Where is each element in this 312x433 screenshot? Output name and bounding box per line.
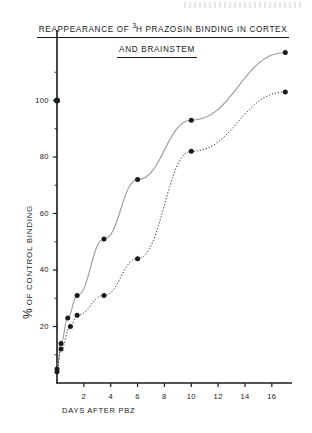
x-axis-tick-label: 8	[154, 392, 174, 401]
data-point-cortex	[75, 293, 80, 298]
data-point-brainstem	[102, 293, 107, 298]
y-axis-label-text: OF CONTROL BINDING	[25, 205, 34, 308]
data-point-cortex	[59, 341, 64, 346]
plot-area: 20 40 60 80 100 2 4 6 8 10 12 14 16 % OF…	[0, 0, 312, 433]
data-point-brainstem	[59, 347, 64, 352]
y-axis-label: % OF CONTROL BINDING	[21, 202, 35, 322]
data-point-cortex	[135, 177, 140, 182]
x-axis-tick-label: 10	[181, 392, 201, 401]
x-axis-tick-label: 14	[235, 392, 255, 401]
data-point-brainstem	[55, 369, 60, 374]
data-point-cortex	[189, 118, 194, 123]
data-point-cortex	[283, 50, 288, 55]
data-point-cortex	[102, 236, 107, 241]
x-axis-tick-label: 4	[101, 392, 121, 401]
control-point	[54, 98, 60, 104]
figure-root: REAPPEARANCE OF 3H PRAZOSIN BINDING IN C…	[0, 0, 312, 433]
data-point-brainstem	[283, 90, 288, 95]
data-point-brainstem	[75, 313, 80, 318]
series-line-brainstem	[57, 92, 285, 372]
data-point-cortex	[65, 316, 70, 321]
y-axis-tick-label: 100	[23, 96, 49, 105]
y-axis-tick-label: 80	[23, 152, 49, 161]
data-point-brainstem	[68, 324, 73, 329]
series-line-cortex	[57, 52, 285, 368]
x-axis-tick-label: 12	[208, 392, 228, 401]
data-point-brainstem	[135, 256, 140, 261]
percent-symbol: %	[21, 308, 35, 319]
x-axis-label: DAYS AFTER PBZ	[62, 406, 135, 415]
x-axis-tick-label: 2	[74, 392, 94, 401]
x-axis-tick-label: 6	[128, 392, 148, 401]
y-axis-tick-label: 20	[23, 322, 49, 331]
data-point-brainstem	[189, 149, 194, 154]
x-axis-tick-label: 16	[262, 392, 282, 401]
